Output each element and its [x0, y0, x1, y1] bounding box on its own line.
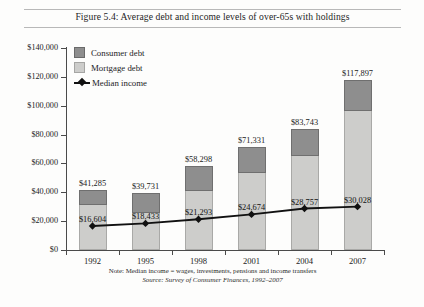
plot-area: $140,000$120,000$100,000$80,000$60,000$4… — [0, 0, 424, 307]
legend-label-mortgage-debt: Mortgage debt — [91, 63, 143, 73]
median-income-line — [0, 0, 424, 307]
legend-swatch-consumer-debt-icon — [74, 47, 85, 58]
legend-item-mortgage-debt: Mortgage debt — [74, 60, 147, 75]
legend-item-consumer-debt: Consumer debt — [74, 45, 147, 60]
figure-source: Source: Survey of Consumer Finances, 199… — [24, 276, 401, 283]
figure-container: Figure 5.4: Average debt and income leve… — [0, 0, 424, 307]
legend-item-median-income: Median income — [74, 75, 147, 90]
legend-swatch-mortgage-debt-icon — [74, 62, 85, 73]
legend-label-consumer-debt: Consumer debt — [91, 48, 145, 58]
median-income-point-label: $30,028 — [326, 196, 390, 205]
legend-line-marker-icon — [74, 77, 90, 88]
legend-label-median-income: Median income — [92, 78, 147, 88]
chart-legend: Consumer debt Mortgage debt Median incom… — [74, 45, 147, 90]
figure-note: Note: Median income = wages, investments… — [24, 267, 401, 274]
